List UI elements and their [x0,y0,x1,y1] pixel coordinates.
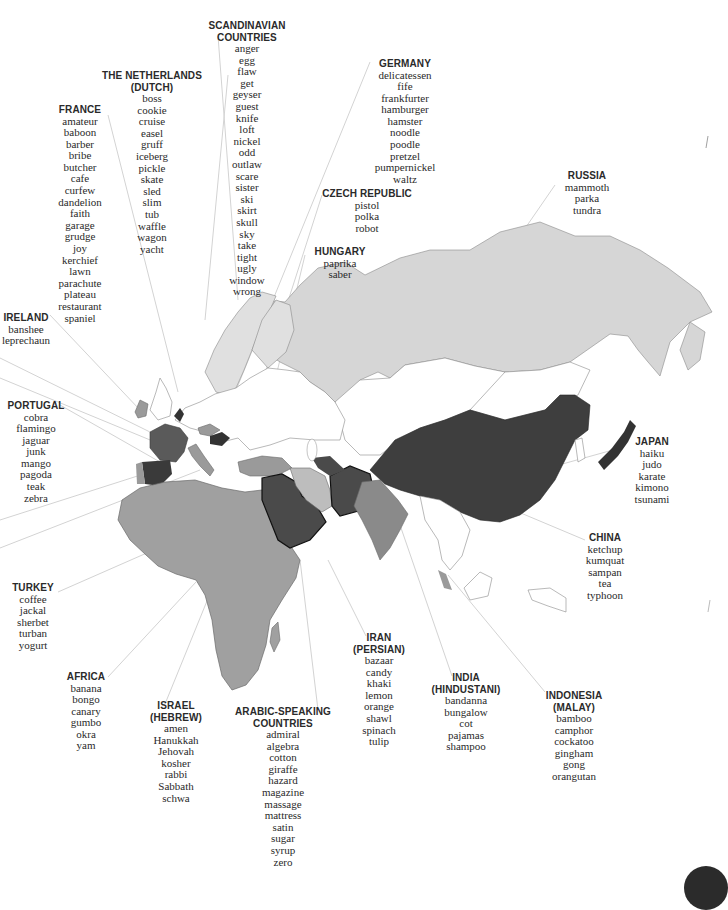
region-title: INDIA [432,672,501,684]
decorative-tick [706,136,708,148]
loanword: schwa [150,793,202,805]
region-label-india: INDIA(HINDUSTANI)bandannabungalowcotpaja… [432,672,501,753]
region-label-russia: RUSSIAmammothparkatundra [565,170,610,216]
region-title: IRELAND [2,312,50,324]
loanword: yogurt [12,640,54,652]
loanword: bandanna [432,695,501,707]
page-corner-badge [684,866,728,910]
region-title: SCANDINAVIAN [208,20,285,32]
region-label-arabic: ARABIC-SPEAKINGCOUNTRIESadmiralalgebraco… [235,706,331,868]
region-label-china: CHINAketchupkumquatsampanteatyphoon [586,532,625,601]
region-label-israel: ISRAEL(HEBREW)amenHanukkahJehovahkosherr… [150,700,202,804]
loanword: leprechaun [2,335,50,347]
loanword: wrong [208,286,285,298]
region-label-hungary: HUNGARYpaprikasaber [315,246,366,281]
region-label-turkey: TURKEYcoffeejackalsherbetturbanyogurt [12,582,54,651]
decorative-tick [708,600,710,612]
ireland-shape [135,400,148,418]
region-label-czech: CZECH REPUBLICpistolpolkarobot [322,188,412,234]
loanword: boss [102,93,202,105]
loanword: tundra [565,205,610,217]
region-label-portugal: PORTUGALcobraflamingojaguarjunkmangopago… [8,400,65,504]
loanword: judo [635,459,670,471]
loanword: spaniel [58,313,101,325]
region-title: CHINA [586,532,625,544]
loanword: flamingo [8,423,65,435]
region-title: INDONESIA [546,690,602,702]
turkey-shape [238,456,292,476]
japan-shape [598,420,636,470]
region-title: IRAN [353,632,405,644]
new-guinea-shape [528,588,566,612]
kamchatka-shape [680,322,705,370]
caspian-sea [307,439,317,461]
loanword: baboon [58,127,101,139]
loanword: tulip [353,736,405,748]
region-title: THE NETHERLANDS [102,70,202,82]
loanword: zero [235,857,331,869]
loanword: jackal [12,605,54,617]
region-title: RUSSIA [565,170,610,182]
loanword: iceberg [102,151,202,163]
loanword: take [208,240,285,252]
loanword: mattress [235,810,331,822]
loanword: sister [208,182,285,194]
loanword: wagon [102,232,202,244]
loanword: loft [208,124,285,136]
loanword: yam [67,740,105,752]
region-title: CZECH REPUBLIC [322,188,412,200]
region-label-ireland: IRELANDbansheeleprechaun [2,312,50,347]
malaysia-shape [438,570,452,590]
region-label-africa: AFRICAbananabongocanarygumbookrayam [67,671,105,752]
region-label-indonesia: INDONESIA(MALAY)bamboocamphorcockatoogin… [546,690,602,783]
loanword: poodle [375,139,435,151]
region-label-netherlands: THE NETHERLANDS(DUTCH)bosscookiecruiseea… [102,70,202,255]
loanword: magazine [235,787,331,799]
region-label-iran: IRAN(PERSIAN)bazaarcandykhakilemonorange… [353,632,405,748]
loanword: zebra [8,493,65,505]
loanword: robot [322,223,412,235]
loanword: Sabbath [150,781,202,793]
loanword: typhoon [586,590,625,602]
loanword: bongo [67,694,105,706]
loanword: anger [208,43,285,55]
loanword: parka [565,193,610,205]
region-label-germany: GERMANYdelicatessenfifefrankfurterhambur… [375,58,435,185]
region-label-france: FRANCEamateurbaboonbarberbribebutchercaf… [58,104,101,324]
madagascar-shape [270,622,280,652]
region-label-scandinavia: SCANDINAVIANCOUNTRIESangereggflawgetgeys… [208,20,285,298]
region-title: JAPAN [635,436,670,448]
uk-shape [150,378,172,420]
loanword: syrup [235,845,331,857]
loanword: bazaar [353,655,405,667]
loanword: waltz [375,174,435,186]
borneo-shape [464,572,492,600]
loanword: kumquat [586,555,625,567]
region-title: HUNGARY [315,246,366,258]
loanword: yacht [102,244,202,256]
loanword: fife [375,81,435,93]
region-title: PORTUGAL [8,400,65,412]
region-title: TURKEY [12,582,54,594]
loanword: skull [208,217,285,229]
loanword: restaurant [58,301,101,313]
loanword: tsunami [635,494,670,506]
loanword: teak [8,481,65,493]
loanword: orangutan [546,771,602,783]
india-shape [354,480,408,560]
loanword: guest [208,101,285,113]
region-title: ARABIC-SPEAKING [235,706,331,718]
loanword: shampoo [432,741,501,753]
loanword: bamboo [546,713,602,725]
loanword: polka [322,211,412,223]
region-title: AFRICA [67,671,105,683]
korea-shape [575,438,585,462]
loanword: tub [102,209,202,221]
loanword: saber [315,269,366,281]
loanword: curfew [58,185,101,197]
italy-shape [188,444,214,476]
france-shape [150,424,188,462]
region-title: GERMANY [375,58,435,70]
loanword: shawl [353,713,405,725]
loanword: amen [150,723,202,735]
